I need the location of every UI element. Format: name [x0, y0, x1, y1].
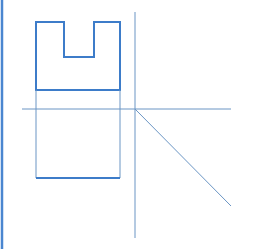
front-view-u-shape	[36, 22, 120, 90]
projection-diagram	[0, 0, 263, 249]
miter-line-45deg	[135, 109, 231, 206]
